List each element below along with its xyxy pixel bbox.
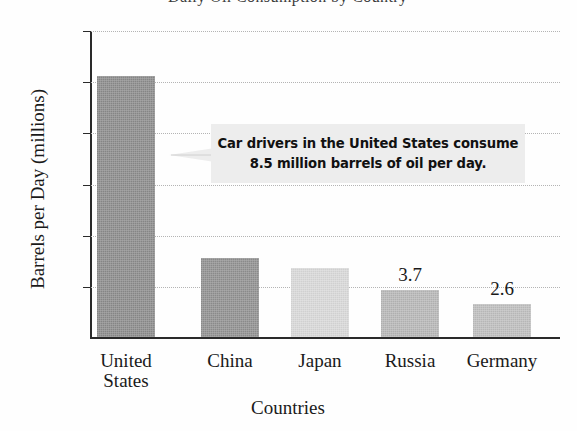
scan-grain — [291, 268, 349, 337]
x-tick-label-united-states: UnitedStates — [71, 351, 181, 391]
chart-title-cropped: Daily Oil Consumption by Country — [0, 0, 577, 9]
y-axis-tick — [83, 31, 91, 32]
scan-grain — [381, 290, 439, 337]
callout-pointer-icon — [163, 144, 215, 166]
bar-china — [201, 258, 259, 337]
scan-grain — [473, 304, 531, 337]
plot-area: 2420161284 3.72.6 UnitedStatesChinaJapan… — [90, 31, 560, 338]
gridline — [91, 236, 560, 237]
chart-title-text: Daily Oil Consumption by Country — [168, 0, 407, 6]
bar-united-states — [97, 76, 155, 337]
y-axis-tick — [83, 287, 91, 288]
x-tick-label-line: Germany — [447, 351, 557, 371]
y-axis-tick — [83, 236, 91, 237]
bar-chart-figure: Daily Oil Consumption by Country Barrels… — [0, 0, 577, 431]
bar-germany — [473, 304, 531, 337]
gridline — [91, 31, 560, 32]
annotation-line-2: 8.5 million barrels of oil per day. — [250, 154, 487, 174]
annotation-line-1: Car drivers in the United States consume — [218, 134, 519, 154]
x-tick-label-line: United — [71, 351, 181, 371]
annotation-callout: Car drivers in the United States consume… — [211, 124, 525, 183]
bar-value-label: 3.7 — [370, 265, 450, 284]
y-axis-tick — [83, 82, 91, 83]
gridline — [91, 82, 560, 83]
bar-russia — [381, 290, 439, 337]
y-axis-tick — [83, 185, 91, 186]
y-axis-tick — [83, 133, 91, 134]
y-axis-title: Barrels per Day (millions) — [27, 59, 49, 319]
x-axis-line — [90, 337, 560, 339]
x-axis-title: Countries — [88, 397, 488, 419]
x-tick-label-line: States — [71, 371, 181, 391]
bar-japan — [291, 268, 349, 337]
x-tick-label-germany: Germany — [447, 351, 557, 371]
bar-value-label: 2.6 — [462, 279, 542, 298]
gridline — [91, 185, 560, 186]
scan-grain — [201, 258, 259, 337]
scan-grain — [97, 76, 155, 337]
